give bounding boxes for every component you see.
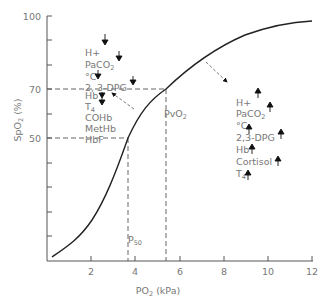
x-ticks [91,256,312,261]
y-axis-title: SpO2 (%) [12,98,25,141]
right-shift-factors: H+ PaCO2 °C 2,3-DPG Hb Cortisol T4 [235,97,275,181]
up-arrow-icon [255,88,261,98]
left-hbf: HbF [85,134,104,145]
x-tick-2: 2 [88,266,94,277]
right-dpg: 2,3-DPG [236,132,275,143]
y-tick-100: 100 [23,11,41,22]
left-shift-factors: H+ PaCO2 °C 2, 3-DPG Hb T4 COHb MetHb Hb… [84,47,127,145]
left-h: H+ [85,47,100,58]
x-axis-title: PO2 (kPa) [136,285,180,298]
x-tick-12: 12 [306,266,318,277]
x-tick-6: 6 [177,266,183,277]
y-ticks [47,16,52,236]
up-arrow-icon [249,144,255,154]
right-hb: Hb [236,144,249,155]
right-h: H+ [236,97,251,108]
left-cohb: COHb [85,112,112,123]
y-tick-50: 50 [29,133,41,144]
left-methb: MetHb [85,123,116,134]
x-tick-8: 8 [221,266,227,277]
left-shift-arrow [112,93,134,109]
y-tick-70: 70 [29,84,41,95]
up-arrow-icon [275,156,281,166]
p50-label: P50 [128,234,142,247]
right-cortisol: Cortisol [236,156,272,167]
down-arrow-icon [102,34,108,45]
left-hb: Hb [85,90,98,101]
pvo2-label: PvO2 [164,108,187,121]
up-arrow-icon [267,102,273,112]
oxygen-dissociation-chart: 100 70 50 2 4 6 8 10 12 PO2 (kPa) SpO2 (… [0,0,328,301]
x-tick-4: 4 [132,266,138,277]
right-t4: T4 [235,168,246,181]
down-arrow-icon [99,92,105,98]
up-arrow-icon [278,129,284,139]
x-tick-10: 10 [262,266,274,277]
left-temp: °C [85,71,97,82]
down-arrow-icon [130,76,136,85]
right-shift-arrow [206,62,227,82]
down-arrow-icon [116,51,122,61]
down-arrow-icon [99,98,105,105]
